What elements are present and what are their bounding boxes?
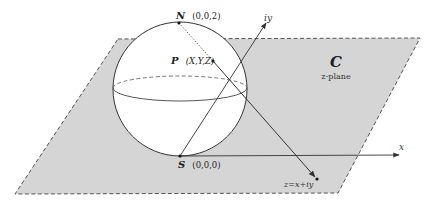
- point-n: [177, 21, 180, 24]
- label-z: z=x+iy: [283, 180, 314, 189]
- point-z: [315, 177, 318, 180]
- stereographic-projection-diagram: N (0,0,2) P (X,Y,Z) S (0,0,0) z=x+iy x i…: [0, 0, 432, 207]
- riemann-sphere: [113, 22, 247, 156]
- label-n: N (0,0,2): [175, 4, 221, 23]
- plane-name: z-plane: [321, 72, 351, 81]
- label-iy-axis: iy: [264, 13, 273, 23]
- point-s: [178, 154, 181, 157]
- label-x-axis: x: [399, 142, 404, 152]
- plane-symbol: C: [330, 53, 342, 71]
